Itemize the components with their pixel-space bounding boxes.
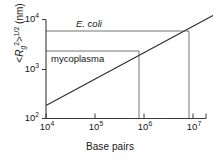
annotation-mycoplasma: mycoplasma: [51, 54, 104, 64]
chart-figure: 104 103 102 104 105 106 107 E. coli myco…: [0, 0, 220, 161]
chart-plot-area: [0, 0, 220, 161]
annotation-ecoli: E. coli: [76, 19, 102, 29]
y-axis-title-wrapper: <Rg2>1/2 (nm): [9, 0, 23, 85]
x-tick-label-10e6: 106: [134, 122, 156, 132]
y-axis-title-units: (nm): [14, 3, 25, 24]
y-axis-title-close: >: [14, 36, 25, 42]
x-axis-title: Base pairs: [0, 141, 220, 152]
y-axis-title-subscript: g: [19, 46, 26, 50]
x-tick-label-10e5: 105: [85, 122, 107, 132]
x-tick-label-10e4: 104: [36, 122, 58, 132]
x-tick-label-10e7: 107: [183, 122, 205, 132]
y-axis-ticks: [42, 20, 46, 119]
y-axis-title-open: <: [14, 57, 25, 63]
x-axis-ticks: [46, 114, 206, 119]
y-tick-label-10e2: 102: [11, 113, 39, 123]
y-axis-title-exponent: 1/2: [13, 27, 20, 36]
y-axis-title-symbol: R: [14, 50, 25, 57]
y-axis-title: <Rg2>1/2 (nm): [14, 3, 25, 62]
